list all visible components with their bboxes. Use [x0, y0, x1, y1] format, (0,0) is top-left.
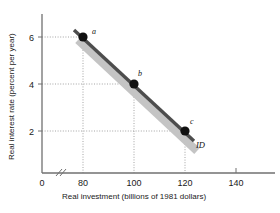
x-tick-label-0: 0 — [39, 178, 44, 188]
y-tick-label-2: 2 — [29, 127, 34, 137]
y-tick-label-6: 6 — [29, 33, 34, 43]
data-point-a — [78, 32, 87, 41]
y-tick-label-4: 4 — [29, 80, 34, 90]
x-tick-label-100: 100 — [126, 178, 141, 188]
data-point-label-c: c — [190, 117, 194, 126]
chart-container: 6 4 2 0 80 100 120 140 a b c ID Real inv… — [0, 0, 280, 213]
data-point-label-a: a — [92, 27, 96, 36]
x-tick-label-120: 120 — [177, 178, 192, 188]
x-tick-label-140: 140 — [228, 178, 243, 188]
data-point-label-b: b — [138, 69, 142, 78]
y-axis-title: Real interest rate (percent per year) — [7, 33, 16, 160]
data-point-c — [180, 126, 189, 135]
curve-label-id: ID — [195, 140, 206, 150]
x-tick-label-80: 80 — [78, 178, 88, 188]
data-point-b — [129, 79, 138, 88]
investment-demand-chart: 6 4 2 0 80 100 120 140 a b c ID Real inv… — [0, 0, 280, 213]
x-axis-title: Real investment (billions of 1981 dollar… — [62, 192, 206, 201]
